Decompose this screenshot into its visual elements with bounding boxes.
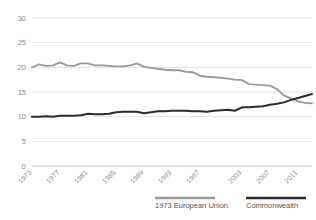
chart-background bbox=[0, 0, 316, 220]
y-axis-tick-label: 10 bbox=[18, 112, 26, 121]
y-axis-tick-label: 20 bbox=[18, 63, 26, 72]
y-axis-tick-label: 5 bbox=[22, 137, 26, 146]
line-chart: 051015202530 197319771981198519891993199… bbox=[0, 0, 316, 220]
y-axis-tick-label: 0 bbox=[22, 162, 26, 171]
legend-label-1: Commonwealth bbox=[246, 201, 298, 210]
y-axis-tick-label: 25 bbox=[18, 38, 26, 47]
y-axis-tick-label: 30 bbox=[18, 14, 26, 23]
chart-canvas: 051015202530 197319771981198519891993199… bbox=[0, 0, 316, 220]
y-axis-tick-label: 15 bbox=[18, 88, 26, 97]
legend-label-0: 1973 European Union bbox=[155, 201, 228, 210]
